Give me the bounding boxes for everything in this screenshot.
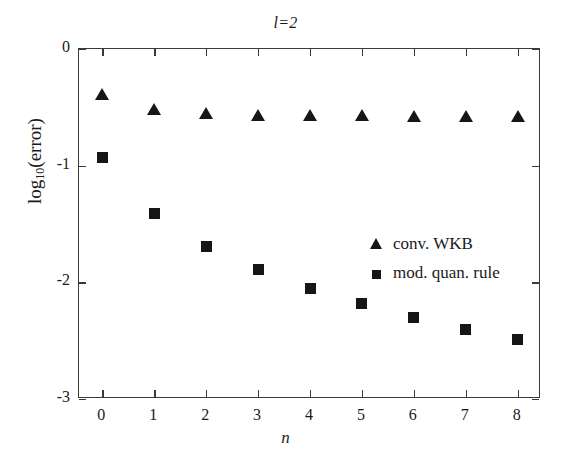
x-tick-bottom (258, 390, 259, 397)
x-tick-bottom (206, 390, 207, 397)
y-axis-label: log10(error) (24, 81, 46, 241)
data-point (355, 109, 369, 121)
triangle-marker-icon (369, 234, 387, 254)
y-axis-label-rest: (error) (24, 118, 45, 168)
data-point (511, 110, 525, 122)
y-tick-label: -2 (30, 271, 70, 289)
chart-title: l=2 (0, 14, 571, 32)
x-tick-bottom (518, 390, 519, 397)
data-point (356, 298, 367, 309)
x-tick-label: 5 (341, 406, 381, 424)
y-tick-left (79, 282, 86, 283)
x-tick-label: 8 (497, 406, 537, 424)
data-point (147, 103, 161, 115)
data-point (407, 110, 421, 122)
square-marker-icon (369, 263, 387, 283)
y-tick-right (532, 282, 539, 283)
x-tick-label: 7 (445, 406, 485, 424)
x-tick-top (102, 49, 103, 56)
x-axis-label: n (0, 428, 571, 448)
legend-label-mod-quan-rule: mod. quan. rule (393, 263, 500, 283)
data-point (303, 109, 317, 121)
legend-item-conv-wkb: conv. WKB (369, 229, 500, 258)
y-tick-right (532, 399, 539, 400)
y-tick-left (79, 399, 86, 400)
figure-canvas: l=2 conv. WKB mod. quan. rule 0123456780… (0, 0, 571, 460)
legend: conv. WKB mod. quan. rule (369, 229, 500, 287)
x-tick-label: 0 (81, 406, 121, 424)
y-tick-label: -3 (30, 388, 70, 406)
x-tick-top (518, 49, 519, 56)
y-tick-left (79, 166, 86, 167)
data-point (97, 152, 108, 163)
y-tick-right (532, 49, 539, 50)
x-tick-bottom (102, 390, 103, 397)
y-axis-label-sub: 10 (33, 168, 47, 180)
data-point (408, 312, 419, 323)
x-tick-bottom (310, 390, 311, 397)
y-axis-label-base: log (24, 180, 45, 204)
x-tick-top (466, 49, 467, 56)
data-point (251, 109, 265, 121)
x-tick-top (362, 49, 363, 56)
x-tick-top (310, 49, 311, 56)
data-point (149, 208, 160, 219)
data-point (460, 324, 471, 335)
x-tick-top (414, 49, 415, 56)
legend-label-conv-wkb: conv. WKB (393, 234, 473, 254)
data-point (253, 264, 264, 275)
legend-item-mod-quan-rule: mod. quan. rule (369, 258, 500, 287)
x-tick-label: 3 (237, 406, 277, 424)
data-point (459, 110, 473, 122)
x-tick-label: 1 (133, 406, 173, 424)
data-point (201, 241, 212, 252)
x-tick-top (258, 49, 259, 56)
data-point (95, 88, 109, 100)
x-tick-bottom (466, 390, 467, 397)
x-tick-top (154, 49, 155, 56)
x-tick-label: 2 (185, 406, 225, 424)
x-tick-label: 6 (393, 406, 433, 424)
plot-area: conv. WKB mod. quan. rule (78, 48, 540, 398)
x-tick-bottom (414, 390, 415, 397)
x-tick-label: 4 (289, 406, 329, 424)
y-tick-right (532, 166, 539, 167)
x-tick-top (206, 49, 207, 56)
data-point (512, 334, 523, 345)
data-point (199, 107, 213, 119)
x-tick-bottom (154, 390, 155, 397)
data-point (305, 283, 316, 294)
x-tick-bottom (362, 390, 363, 397)
y-tick-left (79, 49, 86, 50)
y-tick-label: 0 (30, 38, 70, 56)
